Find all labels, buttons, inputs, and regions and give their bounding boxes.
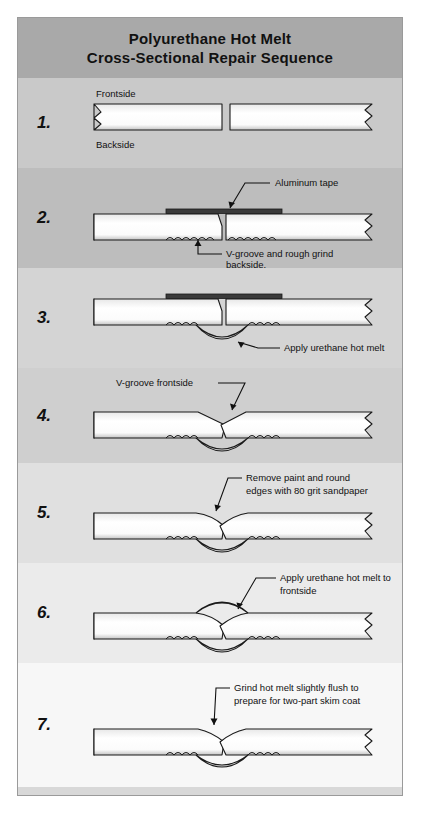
step-number-2: 2. bbox=[18, 208, 70, 228]
step-4-illustration: V-groove frontside bbox=[70, 368, 402, 463]
step-1-label-backside: Backside bbox=[96, 139, 135, 150]
title-banner: Polyurethane Hot Melt Cross-Sectional Re… bbox=[18, 18, 402, 78]
step-number-5: 5. bbox=[18, 503, 70, 523]
repair-sequence-steps: 1. Frontside Backside bbox=[18, 78, 402, 787]
step-5: 5. Remove paint and round edges with 80 … bbox=[18, 463, 402, 563]
step-5-illustration: Remove paint and round edges with 80 gri… bbox=[70, 463, 402, 563]
title-line-1: Polyurethane Hot Melt bbox=[129, 29, 292, 48]
step-6: 6. Apply urethane hot melt to frontside bbox=[18, 563, 402, 663]
step-6-callout-1-line-2: frontside bbox=[280, 585, 316, 596]
step-3: 3. Apply urethane hot melt bbox=[18, 268, 402, 368]
step-2: 2. Aluminum tape V-groove and rough grin… bbox=[18, 168, 402, 268]
step-1-label-frontside: Frontside bbox=[96, 88, 136, 99]
title-line-2: Cross-Sectional Repair Sequence bbox=[87, 48, 333, 67]
step-7-callout-1-line-2: prepare for two-part skim coat bbox=[234, 695, 361, 706]
diagram-frame: Polyurethane Hot Melt Cross-Sectional Re… bbox=[17, 17, 403, 796]
step-5-callout-1-line-1: Remove paint and round bbox=[246, 472, 350, 483]
step-4-callout-1-line-1: V-groove frontside bbox=[116, 377, 193, 388]
step-number-4: 4. bbox=[18, 406, 70, 426]
step-2-illustration: Aluminum tape V-groove and rough grind b… bbox=[70, 168, 402, 268]
step-3-callout-1-line-1: Apply urethane hot melt bbox=[284, 342, 385, 353]
step-7-illustration: Grind hot melt slightly flush to prepare… bbox=[70, 663, 402, 787]
step-number-6: 6. bbox=[18, 603, 70, 623]
step-1-illustration: Frontside Backside bbox=[70, 78, 402, 168]
step-2-callout-1-line-1: Aluminum tape bbox=[275, 177, 338, 188]
step-2-callout-2-line-1: V-groove and rough grind bbox=[226, 248, 333, 259]
step-7-callout-1-line-1: Grind hot melt slightly flush to bbox=[234, 682, 359, 693]
step-7: 7. Grind hot melt slightly flush to prep… bbox=[18, 663, 402, 787]
step-number-1: 1. bbox=[18, 113, 70, 133]
step-5-callout-1-line-2: edges with 80 grit sandpaper bbox=[246, 485, 368, 496]
step-number-7: 7. bbox=[18, 715, 70, 735]
step-number-3: 3. bbox=[18, 308, 70, 328]
step-4: 4. V-groove frontside bbox=[18, 368, 402, 463]
step-6-callout-1-line-1: Apply urethane hot melt to bbox=[280, 572, 391, 583]
step-1: 1. Frontside Backside bbox=[18, 78, 402, 168]
step-3-illustration: Apply urethane hot melt bbox=[70, 268, 402, 368]
step-6-illustration: Apply urethane hot melt to frontside bbox=[70, 563, 402, 663]
step-2-callout-2-line-2: backside. bbox=[226, 259, 266, 268]
